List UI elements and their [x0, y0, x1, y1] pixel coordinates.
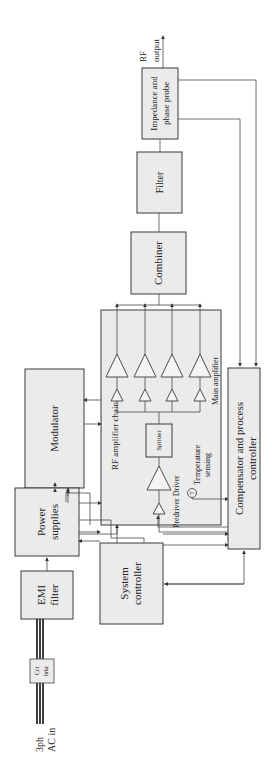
temperature-label-1: Temperature [193, 444, 202, 485]
compensator-block: Compensator and process controller [228, 368, 260, 549]
rf-output-label-1: RF [138, 51, 148, 62]
system-controller-block: System controller [100, 543, 163, 624]
svg-text:Power: Power [35, 508, 47, 536]
rf-amplifier-chain-block: RF amplifier chain [101, 310, 221, 525]
main-amplifier-label: Main amplifier [211, 356, 220, 405]
predriver-driver-label: Predriver Driver [172, 475, 181, 528]
ac-in-label-2: AC in [46, 728, 57, 752]
emi-filter-block: EMI filter [21, 571, 73, 619]
rf-output-label-2: output [151, 38, 161, 62]
temperature-sensor: T [188, 489, 197, 498]
system-to-compensator-line [163, 551, 244, 584]
svg-text:controller: controller [246, 437, 258, 480]
splitter-block: Splitter [146, 424, 172, 457]
block-diagram: RF output Impedance and phase probe Filt… [0, 0, 272, 775]
circuit-breaker-block: Cct brkr [30, 659, 54, 683]
filter-block: Filter [137, 152, 182, 213]
svg-text:Filter: Filter [154, 171, 165, 193]
impedance-probe-block: Impedance and phase probe [142, 68, 178, 139]
svg-text:Modulator: Modulator [48, 405, 60, 452]
svg-text:supplies: supplies [48, 504, 60, 540]
power-supplies-block: Power supplies [15, 488, 79, 556]
svg-text:brkr: brkr [43, 666, 49, 676]
temperature-symbol: T [189, 491, 195, 495]
svg-text:Combiner: Combiner [152, 241, 164, 285]
svg-text:Impedance and: Impedance and [149, 76, 159, 131]
svg-text:EMI: EMI [35, 585, 47, 606]
svg-text:Splitter: Splitter [155, 430, 163, 451]
temperature-label-2: sensing [203, 453, 212, 477]
modulator-block: Modulator [25, 369, 84, 488]
svg-text:filter: filter [48, 584, 60, 606]
svg-text:phase probe: phase probe [161, 82, 171, 125]
svg-text:System: System [118, 567, 130, 600]
svg-text:Compensator and process: Compensator and process [233, 402, 245, 515]
combiner-block: Combiner [131, 232, 186, 294]
svg-text:Cct: Cct [34, 667, 40, 676]
svg-text:controller: controller [131, 562, 143, 605]
ac-in-label-1: 3ph [34, 737, 45, 752]
